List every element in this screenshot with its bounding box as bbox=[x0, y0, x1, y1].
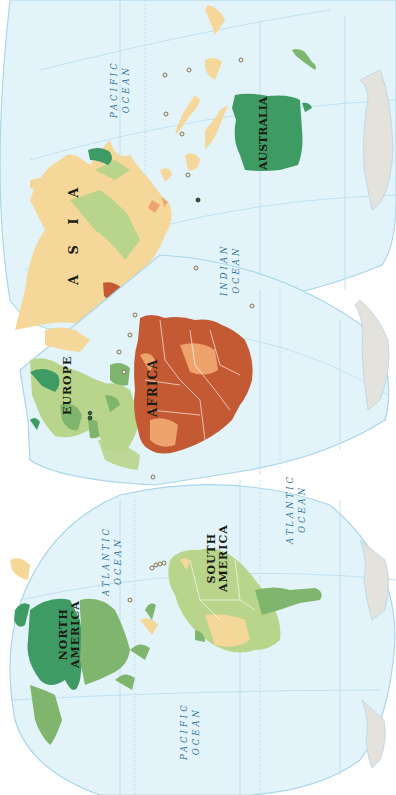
ocean-label-indian: INDIAN OCEAN bbox=[218, 243, 242, 296]
continent-label-asia: A S I A bbox=[68, 180, 80, 285]
world-map bbox=[0, 0, 396, 795]
continent-label-africa: AFRICA bbox=[147, 359, 159, 417]
continent-label-europe: EUROPE bbox=[62, 356, 74, 415]
ocean-label-pacific-bottom: PACIFIC OCEAN bbox=[178, 702, 202, 760]
ocean-label-atlantic-north: ATLANTIC OCEAN bbox=[100, 526, 124, 596]
ocean-label-pacific-top: PACIFIC OCEAN bbox=[108, 60, 132, 118]
continent-label-south-america: SOUTH AMERICA bbox=[206, 524, 230, 592]
ocean-label-atlantic-south: ATLANTIC OCEAN bbox=[284, 474, 308, 544]
continent-label-australia: AUSTRALIA bbox=[258, 97, 270, 170]
continent-label-north-america: NORTH AMERICA bbox=[58, 600, 82, 668]
